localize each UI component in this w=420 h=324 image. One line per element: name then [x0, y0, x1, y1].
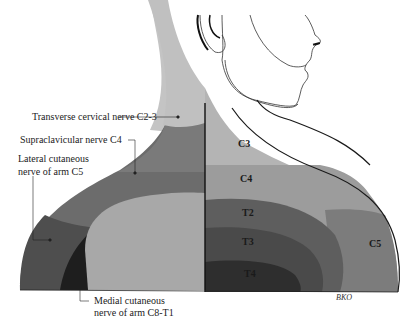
dermatome-t4: T4	[244, 268, 256, 279]
dermatome-diagram: Transverse cervical nerve C2-3 Supraclav…	[0, 0, 420, 324]
label-transverse-cervical-nerve: Transverse cervical nerve C2-3	[32, 111, 157, 123]
label-lateral-cutaneous-line2: nerve of arm C5	[18, 166, 83, 178]
label-medial-cutaneous-line1: Medial cutaneous	[94, 295, 165, 307]
label-medial-cutaneous-line2: nerve of arm C8-T1	[94, 307, 174, 319]
label-supraclavicular-nerve: Supraclavicular nerve C4	[20, 134, 122, 146]
dermatome-c4: C4	[240, 173, 252, 184]
artist-signature: BKO	[336, 293, 352, 302]
dermatome-c5: C5	[369, 238, 381, 249]
label-lateral-cutaneous-line1: Lateral cutaneous	[18, 153, 89, 165]
dermatome-t3: T3	[242, 236, 254, 247]
dermatome-c3: C3	[238, 138, 250, 149]
right-half-dermatomes	[205, 88, 399, 292]
dermatome-t2: T2	[242, 207, 254, 218]
